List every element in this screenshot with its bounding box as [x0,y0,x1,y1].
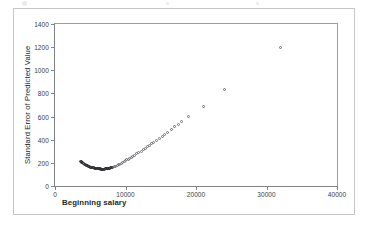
y-axis-tick-label: 1200 [34,44,49,51]
data-point [170,128,173,131]
y-axis-title: Standard Error of Predicted Value [23,23,32,187]
y-axis-tick [51,47,55,48]
y-axis-tick-label: 400 [38,136,49,143]
y-axis-tick-label: 200 [38,159,49,166]
x-axis-tick [126,186,127,190]
y-axis-tick [51,140,55,141]
x-axis-tick [196,186,197,190]
x-axis-tick-label: 20000 [187,191,206,198]
y-axis-tick [51,70,55,71]
plot-frame: 0200400600800100012001400010000200003000… [54,23,338,187]
y-axis-tick-label: 800 [38,90,49,97]
y-axis-tick-label: 1000 [34,67,49,74]
x-axis-tick-label: 40000 [328,191,347,198]
x-axis-tick-label: 0 [53,191,57,198]
x-axis-tick [337,186,338,190]
x-axis-tick-label: 30000 [257,191,276,198]
x-axis-tick [267,186,268,190]
cut-off-text-sliver [0,0,370,7]
y-axis-tick [51,117,55,118]
data-point [202,105,205,108]
screenshot-page: Standard Error of Predicted Value 020040… [0,0,370,231]
x-axis-title: Beginning salary [62,198,126,207]
y-axis-tick [51,24,55,25]
plot-surface [55,24,337,186]
data-point [223,88,226,91]
x-axis-tick-label: 10000 [116,191,135,198]
data-point [180,120,183,123]
y-axis-tick-label: 600 [38,113,49,120]
data-point [177,123,180,126]
chart-card: Standard Error of Predicted Value 020040… [13,8,355,215]
y-axis-tick [51,163,55,164]
y-axis-tick-label: 0 [45,183,49,190]
data-point [279,46,282,49]
y-axis-tick-label: 1400 [34,21,49,28]
x-axis-tick [55,186,56,190]
y-axis-tick [51,93,55,94]
data-point [187,115,190,118]
data-point [173,125,176,128]
data-point [166,131,169,134]
